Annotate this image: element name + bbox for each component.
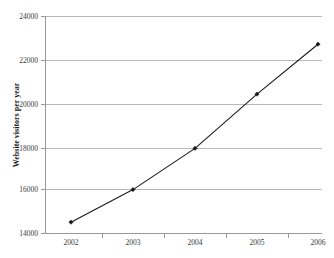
series-line [71, 44, 318, 222]
line-chart: 24000 22000 20000 18000 16000 14000 2002… [0, 0, 334, 258]
data-series [0, 0, 334, 258]
series-markers [69, 42, 320, 224]
data-point-2002 [69, 220, 73, 224]
